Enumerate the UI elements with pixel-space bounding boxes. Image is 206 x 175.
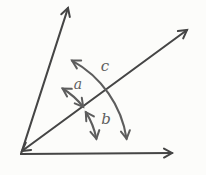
angle-label-c: c [101,57,110,75]
angle-arc-b [86,112,97,139]
angle-label-a: a [74,76,82,92]
angle-arcs-group [63,61,127,139]
angle-arc-c [72,61,127,139]
angle-label-b: b [101,110,111,128]
rays-group [21,8,187,154]
angle-labels-group: a b c [74,57,111,128]
steep-ray [21,8,68,154]
angle-diagram: a b c [0,0,206,175]
figure-canvas: a b c [0,0,206,175]
horizontal-ray [21,153,172,154]
diagonal-line [22,30,187,151]
